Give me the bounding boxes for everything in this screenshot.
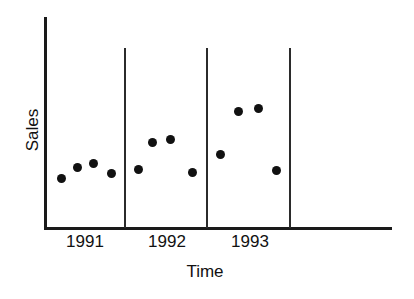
x-tick-label-1991: 1991	[53, 232, 117, 252]
data-point	[57, 174, 66, 183]
x-axis-line	[44, 227, 392, 230]
data-point	[272, 166, 281, 175]
data-point	[166, 135, 175, 144]
x-tick-label-1993: 1993	[218, 232, 282, 252]
data-point	[188, 168, 197, 177]
group-divider-2	[206, 48, 208, 228]
scatter-plot-chart: 1991 1992 1993 Time Sales	[0, 0, 414, 299]
data-point	[216, 150, 225, 159]
data-point	[134, 165, 143, 174]
x-axis-title: Time	[165, 262, 245, 282]
x-tick-label-1992: 1992	[135, 232, 199, 252]
group-divider-1	[124, 48, 126, 228]
data-point	[89, 159, 98, 168]
group-divider-3	[289, 48, 291, 228]
y-axis-title: Sales	[23, 90, 43, 170]
data-point	[107, 169, 116, 178]
data-point	[148, 138, 157, 147]
data-point	[234, 107, 243, 116]
data-point	[254, 104, 263, 113]
data-point	[73, 163, 82, 172]
y-axis-line	[44, 17, 47, 229]
